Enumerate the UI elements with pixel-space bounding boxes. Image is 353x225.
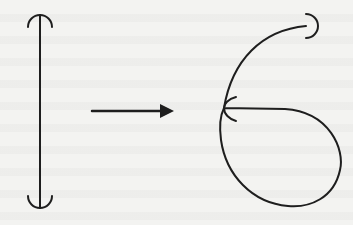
diagram-canvas bbox=[0, 0, 353, 225]
top-right-hook-icon bbox=[306, 14, 318, 38]
arrowhead-icon bbox=[160, 104, 174, 118]
loop-curve bbox=[220, 14, 341, 206]
straight-segment bbox=[28, 15, 52, 208]
figure-svg bbox=[0, 0, 353, 225]
